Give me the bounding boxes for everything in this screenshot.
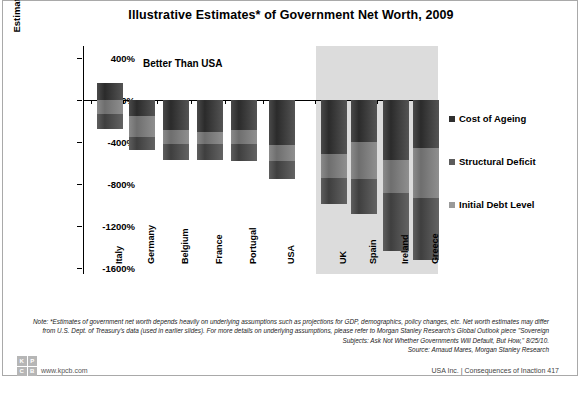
- legend-swatch-icon-structural: [449, 159, 455, 165]
- bar-segment: [269, 145, 295, 161]
- bar-segment: [351, 142, 377, 179]
- y-tick-0: [77, 100, 82, 101]
- x-axis-label-spain: Spain: [368, 239, 378, 264]
- kpcb-logo-icon: K P C B: [17, 356, 37, 376]
- legend-label-ageing: Cost of Ageing: [459, 113, 526, 124]
- bar-segment: [97, 114, 123, 130]
- bar-uk: [321, 100, 347, 204]
- bar-segment: [231, 144, 257, 161]
- legend-item-initial-debt-level: Initial Debt Level: [449, 199, 575, 210]
- footer-page-label: USA Inc. | Consequences of Inaction 417: [431, 367, 559, 374]
- logo-letter-k: K: [17, 356, 27, 366]
- legend-item-cost-of-ageing: Cost of Ageing: [449, 113, 575, 124]
- bar-segment: [269, 100, 295, 145]
- bar-portugal: [231, 100, 257, 161]
- x-tick: [191, 100, 192, 104]
- x-tick: [377, 100, 378, 104]
- page-title: Illustrative Estimates* of Government Ne…: [3, 8, 579, 22]
- logo-letter-c: C: [17, 367, 27, 377]
- bar-germany: [129, 100, 155, 150]
- bar-segment: [197, 100, 223, 132]
- bar-segment: [351, 100, 377, 142]
- bar-positive: [97, 83, 123, 100]
- y-tick-m800: [77, 184, 82, 185]
- chart-note: Note:*Estimates of government net worth …: [33, 317, 549, 345]
- y-axis-line: [83, 46, 84, 274]
- slide-frame: Illustrative Estimates* of Government Ne…: [2, 0, 578, 376]
- legend-swatch-icon-ageing: [449, 116, 455, 122]
- x-tick: [263, 100, 264, 104]
- bar-segment: [163, 130, 189, 144]
- bar-segment: [413, 100, 439, 148]
- x-axis-label-germany: Germany: [146, 225, 156, 264]
- bar-segment: [129, 116, 155, 137]
- plot-area: ItalyGermanyBelgiumFrancePortugalUSAUKSp…: [83, 46, 438, 274]
- logo-letter-p: P: [28, 356, 38, 366]
- bar-france: [197, 100, 223, 160]
- bar-belgium: [163, 100, 189, 160]
- bar-italy: [97, 100, 123, 129]
- y-tick-m1600: [77, 268, 82, 269]
- x-axis-label-italy: Italy: [114, 246, 124, 264]
- x-axis-label-ireland: Ireland: [400, 234, 410, 264]
- bar-segment: [97, 100, 123, 114]
- legend-label-structural: Structural Deficit: [459, 156, 536, 167]
- x-tick: [157, 100, 158, 104]
- y-tick-400: [77, 58, 82, 59]
- bar-segment: [351, 179, 377, 215]
- x-axis-label-greece: Greece: [430, 233, 440, 264]
- bar-segment: [197, 144, 223, 160]
- bar-segment: [383, 100, 409, 160]
- bar-usa: [269, 100, 295, 179]
- bar-segment: [321, 154, 347, 178]
- bar-segment: [163, 144, 189, 160]
- bar-segment: [413, 148, 439, 197]
- bar-segment: [269, 161, 295, 179]
- legend-item-structural-deficit: Structural Deficit: [449, 156, 575, 167]
- y-axis-title-wrap: Estimated Government Net Worth as % of G…: [33, 61, 47, 271]
- bar-segment: [197, 132, 223, 145]
- legend-swatch-icon-debt: [449, 202, 455, 208]
- logo-letter-b: B: [28, 367, 38, 377]
- bar-segment: [231, 130, 257, 144]
- chart-legend: Cost of Ageing Structural Deficit Initia…: [449, 113, 575, 242]
- x-tick: [123, 100, 124, 104]
- bar-segment: [129, 100, 155, 116]
- x-tick: [225, 100, 226, 104]
- footer-url[interactable]: www.kpcb.com: [41, 367, 88, 374]
- x-axis-label-usa: USA: [286, 245, 296, 264]
- note-lead: Note:: [33, 317, 48, 326]
- legend-label-debt: Initial Debt Level: [459, 199, 535, 210]
- x-axis-label-belgium: Belgium: [180, 228, 190, 264]
- slide: Illustrative Estimates* of Government Ne…: [0, 0, 582, 407]
- x-axis-label-portugal: Portugal: [248, 227, 258, 264]
- chart-source: Source: Arnaud Mares, Morgan Stanley Res…: [33, 346, 549, 353]
- note-body: *Estimates of government net worth depen…: [43, 318, 550, 344]
- y-tick-m1200: [77, 226, 82, 227]
- x-tick: [91, 100, 92, 104]
- bar-segment: [231, 100, 257, 130]
- x-tick: [315, 100, 316, 104]
- bar-segment: [321, 178, 347, 204]
- bar-segment: [163, 100, 189, 130]
- bottom-band: USA Inc.: [0, 382, 582, 407]
- bar-ireland: [383, 100, 409, 251]
- bar-segment: [321, 100, 347, 154]
- x-axis-label-france: France: [214, 234, 224, 264]
- y-axis-title: Estimated Government Net Worth as % of G…: [11, 0, 22, 47]
- bar-segment: [129, 137, 155, 151]
- x-axis-label-uk: UK: [338, 251, 348, 264]
- bar-segment: [383, 160, 409, 194]
- bar-segment: [97, 83, 123, 100]
- y-tick-m400: [77, 142, 82, 143]
- bar-spain: [351, 100, 377, 214]
